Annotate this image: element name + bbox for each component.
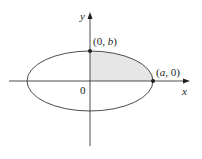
point-0-b-label: (0, b) [93,35,117,48]
shaded-quadrant [90,51,153,81]
point-a-0-label: (a, 0) [156,66,180,79]
point-0-b [88,49,92,53]
x-axis-arrow-icon [183,79,190,84]
point-a-0 [151,79,155,83]
y-axis-label: y [79,10,85,22]
x-axis-label: x [181,85,187,97]
ellipse-diagram: y x 0 (0, b) (a, 0) [0,0,202,159]
origin-label: 0 [80,84,86,96]
y-axis-arrow-icon [88,12,93,19]
